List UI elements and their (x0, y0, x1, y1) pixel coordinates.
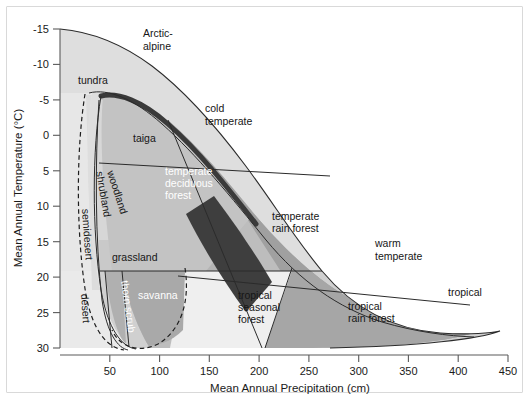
svg-text:seasonal: seasonal (238, 301, 280, 313)
svg-text:tropical: tropical (348, 300, 382, 312)
svg-text:temperate: temperate (375, 250, 422, 262)
svg-text:Arctic-: Arctic- (143, 27, 173, 39)
x-tick-label: 200 (250, 365, 268, 377)
y-axis-ticks (53, 29, 60, 348)
x-axis-ticks (110, 355, 508, 362)
label-tropical: tropical (448, 286, 482, 298)
label-tundra: tundra (78, 74, 108, 86)
y-tick-label: 25 (37, 307, 49, 319)
x-tick-label: 300 (350, 365, 368, 377)
y-tick-label: 5 (43, 165, 49, 177)
y-axis-title: Mean Annual Temperature (°C) (12, 109, 24, 268)
y-tick-label: -5 (39, 94, 49, 106)
label-tropical-rain-forest: tropical rain forest (348, 300, 395, 324)
y-tick-labels: -15 -10 -5 0 5 10 15 20 25 30 (33, 23, 49, 354)
whittaker-biome-chart: -15 -10 -5 0 5 10 15 20 25 30 50 100 150… (0, 0, 530, 401)
x-tick-labels: 50 100 150 200 250 300 350 400 450 (104, 365, 518, 377)
x-tick-label: 350 (399, 365, 417, 377)
label-temperate-rain-forest: temperate rain forest (272, 210, 319, 234)
y-tick-label: 10 (37, 200, 49, 212)
y-tick-label: 15 (37, 236, 49, 248)
figure-frame: -15 -10 -5 0 5 10 15 20 25 30 50 100 150… (0, 0, 530, 401)
svg-text:temperate: temperate (205, 115, 252, 127)
svg-text:rain forest: rain forest (348, 312, 395, 324)
svg-text:temperate: temperate (272, 210, 319, 222)
x-tick-label: 450 (499, 365, 517, 377)
y-tick-label: 0 (43, 129, 49, 141)
svg-text:deciduous: deciduous (165, 177, 213, 189)
svg-text:forest: forest (238, 313, 264, 325)
x-tick-label: 250 (300, 365, 318, 377)
y-tick-label: -10 (33, 58, 49, 70)
label-cold-temperate: cold temperate (205, 102, 252, 127)
x-tick-label: 100 (150, 365, 168, 377)
svg-text:cold: cold (205, 102, 224, 114)
x-tick-label: 50 (104, 365, 116, 377)
x-tick-label: 150 (200, 365, 218, 377)
svg-text:alpine: alpine (143, 40, 171, 52)
x-axis-title: Mean Annual Precipitation (cm) (210, 382, 370, 394)
svg-text:warm: warm (374, 237, 401, 249)
label-warm-temperate: warm temperate (374, 237, 422, 262)
label-arctic-alpine: Arctic- alpine (143, 27, 173, 52)
y-tick-label: 20 (37, 271, 49, 283)
label-savanna: savanna (138, 289, 178, 301)
x-tick-label: 400 (449, 365, 467, 377)
label-grassland: grassland (112, 251, 158, 263)
svg-text:forest: forest (165, 189, 191, 201)
svg-text:rain forest: rain forest (272, 222, 319, 234)
y-tick-label: -15 (33, 23, 49, 35)
svg-text:temperate: temperate (165, 165, 212, 177)
label-desert: desert (79, 293, 93, 323)
svg-text:tropical: tropical (238, 289, 272, 301)
y-tick-label: 30 (37, 342, 49, 354)
label-taiga: taiga (133, 132, 156, 144)
